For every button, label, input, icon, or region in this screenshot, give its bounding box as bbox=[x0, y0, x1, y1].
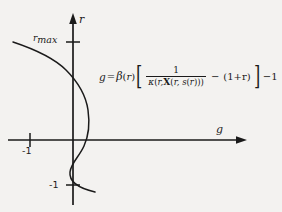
bracket-open-icon: [ bbox=[136, 66, 142, 86]
equation-beta-close: ) bbox=[131, 71, 135, 82]
equation-annotation: g = β ( r ) [ 1 κ(r,X(r, s(r))) − (1+r) … bbox=[99, 66, 278, 87]
r-axis-arrowhead bbox=[69, 13, 77, 24]
fraction-numerator: 1 bbox=[171, 66, 181, 76]
r-axis-label: r bbox=[79, 14, 84, 25]
tick-label-neg1-r: -1 bbox=[49, 180, 58, 190]
equation-minus-sign: − bbox=[211, 71, 219, 82]
tick-label-rmax: rmax bbox=[33, 34, 57, 45]
equation-equals: = bbox=[107, 71, 115, 82]
g-axis-arrowhead bbox=[236, 136, 247, 144]
math-figure: r g rmax -1 -1 g = β ( r ) [ 1 κ(r,X(r, … bbox=[0, 0, 282, 212]
g-axis-label: g bbox=[216, 124, 223, 135]
tick-label-neg1-g: -1 bbox=[22, 146, 31, 156]
tick-label-rmax-subscript: max bbox=[37, 34, 57, 45]
fraction-denominator: κ(r,X(r, s(r))) bbox=[146, 77, 206, 87]
equation-trailing-term: −1 bbox=[263, 71, 278, 82]
equation-fraction: 1 κ(r,X(r, s(r))) bbox=[146, 66, 206, 87]
plot-canvas bbox=[0, 0, 282, 212]
response-curve bbox=[13, 42, 95, 192]
bracket-close-icon: ] bbox=[254, 66, 260, 86]
denominator-close-paren: ) bbox=[201, 77, 204, 87]
equation-lhs: g bbox=[99, 71, 106, 83]
equation-one-plus-r: (1+r) bbox=[223, 71, 250, 82]
denominator-x-args: r, s bbox=[174, 77, 187, 87]
